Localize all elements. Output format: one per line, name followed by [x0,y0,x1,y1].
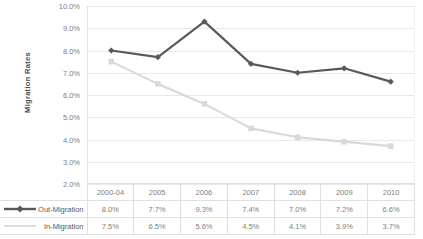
data-point-marker [388,143,394,149]
legend-swatch-icon [3,221,37,231]
y-axis-tick: 5.0% [63,113,80,122]
table-column-header: 2008 [274,184,321,201]
table-cell-value: 6.6% [368,201,415,218]
legend-label: In-Migration [44,222,84,231]
table-cell-value: 4.5% [227,218,274,235]
y-axis-tick: 9.0% [63,24,80,33]
data-point-marker [295,134,301,140]
data-point-marker [248,126,254,132]
table-cell-value: 7.4% [227,201,274,218]
data-table: 2000-04200520062007200820092010Out-Migra… [0,183,415,235]
plot-area [87,6,415,184]
table-corner-cell [0,184,87,201]
table-cell-value: 8.0% [87,201,134,218]
data-point-marker [202,101,208,107]
table-column-header: 2010 [368,184,415,201]
data-point-marker [294,70,300,76]
data-point-marker [341,139,347,145]
y-axis-tick: 6.0% [63,91,80,100]
y-axis-tick: 4.0% [63,135,80,144]
legend-label: Out-Migration [38,205,83,214]
table-cell-value: 7.7% [134,201,181,218]
table-cell-value: 3.9% [321,218,368,235]
table-cell-value: 3.7% [368,218,415,235]
table-column-header: 2006 [181,184,228,201]
table-column-header: 2005 [134,184,181,201]
table-cell-value: 7.0% [274,201,321,218]
data-point-marker [108,47,114,53]
table-column-header: 2000-04 [87,184,134,201]
table-row: Out-Migration8.0%7.7%9.3%7.4%7.0%7.2%6.6… [0,201,415,218]
legend-entry-in-migration: In-Migration [0,218,87,235]
series-line-out-migration [111,22,390,82]
table-cell-value: 9.3% [181,201,228,218]
table-row: In-Migration7.5%6.5%5.6%4.5%4.1%3.9%3.7% [0,218,415,235]
table-header-row: 2000-04200520062007200820092010 [0,184,415,201]
table-cell-value: 5.6% [181,218,228,235]
legend-swatch-icon [3,204,37,214]
y-axis-tick-labels: 10.0%9.0%8.0%7.0%6.0%5.0%4.0%3.0%2.0% [44,0,84,184]
y-axis-tick: 10.0% [59,2,80,11]
data-point-marker [341,65,347,71]
table-cell-value: 7.5% [87,218,134,235]
y-axis-title-label: Migration Rates [23,52,32,113]
table-cell-value: 4.1% [274,218,321,235]
data-point-marker [155,81,161,87]
migration-rates-chart: Migration Rates 10.0%9.0%8.0%7.0%6.0%5.0… [0,0,423,239]
y-axis-tick: 3.0% [63,157,80,166]
table-column-header: 2009 [321,184,368,201]
series-lines [88,6,414,184]
table-column-header: 2007 [227,184,274,201]
y-axis-tick: 8.0% [63,46,80,55]
y-axis-tick: 7.0% [63,68,80,77]
data-point-marker [388,79,394,85]
y-axis-title: Migration Rates [20,38,34,126]
table-cell-value: 7.2% [321,201,368,218]
table-cell-value: 6.5% [134,218,181,235]
legend-entry-out-migration: Out-Migration [0,201,87,218]
series-line-in-migration [111,62,390,147]
data-point-marker [109,59,115,65]
